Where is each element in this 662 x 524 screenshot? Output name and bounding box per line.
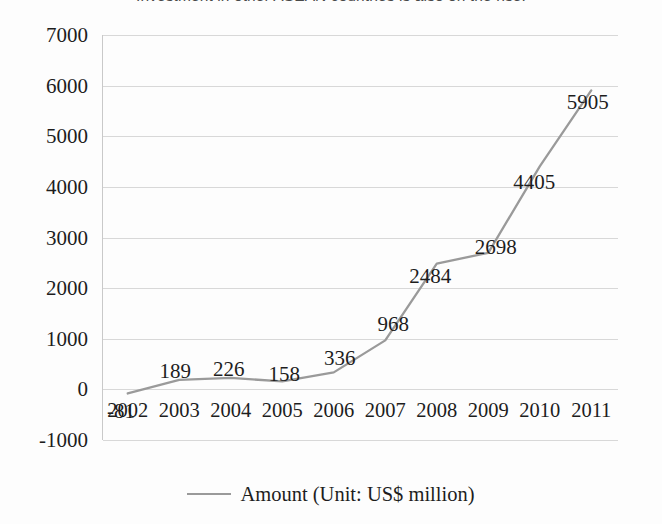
- y-axis-tick-label: -1000: [0, 430, 88, 451]
- data-point-label: 2484: [409, 266, 451, 287]
- data-point-label: 2698: [475, 237, 517, 258]
- y-axis-tick-label: 1000: [0, 329, 88, 350]
- data-point-label: 336: [324, 348, 356, 369]
- data-point-label: 968: [377, 314, 409, 335]
- y-axis-tick-label: 4000: [0, 177, 88, 198]
- y-axis-tick-label: 2000: [0, 278, 88, 299]
- y-axis-tick-label: 6000: [0, 76, 88, 97]
- y-axis-tick-label: 5000: [0, 126, 88, 147]
- x-axis-tick-label: 2003: [151, 400, 207, 421]
- x-axis-tick-label: 2009: [460, 400, 516, 421]
- y-axis-tick-label: 7000: [0, 25, 88, 46]
- x-axis-tick-label: 2011: [563, 400, 619, 421]
- chart-page: Investment in other ASEAN countries is a…: [0, 0, 662, 524]
- line-chart: 70006000500040003000200010000-1000200220…: [0, 0, 662, 524]
- x-axis-tick-label: 2004: [203, 400, 259, 421]
- data-point-label: -81: [107, 401, 135, 422]
- chart-legend: Amount (Unit: US$ million): [0, 484, 662, 505]
- data-point-label: 189: [159, 361, 191, 382]
- x-axis-tick-label: 2006: [306, 400, 362, 421]
- y-axis-tick-label: 3000: [0, 228, 88, 249]
- data-point-label: 158: [268, 364, 300, 385]
- legend-label-amount: Amount (Unit: US$ million): [240, 484, 474, 505]
- legend-line-swatch: [187, 493, 231, 495]
- data-point-label: 226: [213, 359, 245, 380]
- y-axis-tick-label: 0: [0, 379, 88, 400]
- x-axis-tick-label: 2010: [512, 400, 568, 421]
- x-axis-tick-label: 2008: [409, 400, 465, 421]
- gridline--1000: [103, 440, 618, 441]
- x-axis-tick-label: 2007: [357, 400, 413, 421]
- data-point-label: 5905: [567, 92, 609, 113]
- data-point-label: 4405: [513, 172, 555, 193]
- x-axis-tick-label: 2005: [254, 400, 310, 421]
